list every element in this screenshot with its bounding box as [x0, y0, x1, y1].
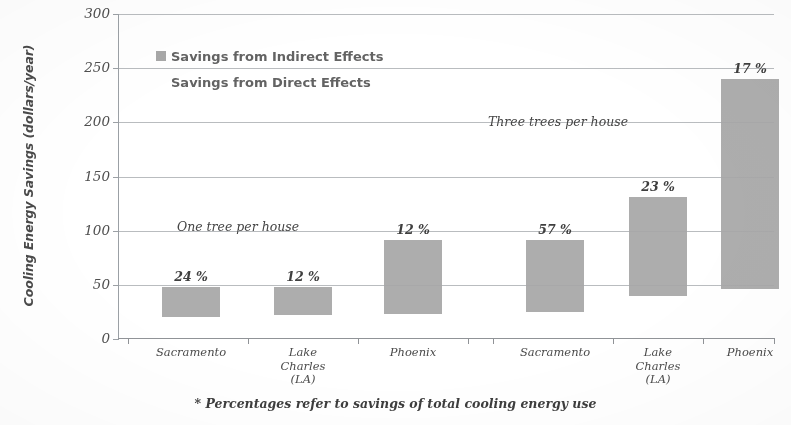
- gridline: [118, 14, 774, 15]
- x-tick-mark: [358, 338, 359, 344]
- x-category-label: Sacramento: [495, 346, 615, 360]
- legend-item-indirect: Savings from Indirect Effects: [156, 43, 383, 69]
- y-tick-label: 300: [56, 5, 110, 21]
- x-tick-mark: [703, 338, 704, 344]
- x-category-label: Phoenix: [353, 346, 473, 360]
- y-tick-mark: [113, 68, 119, 69]
- bar-percent-label: 12 %: [396, 222, 430, 237]
- x-axis-line: [118, 338, 774, 339]
- bar: [526, 240, 584, 312]
- x-tick-mark: [613, 338, 614, 344]
- bar: [629, 197, 687, 296]
- y-tick-label: 0: [56, 330, 110, 346]
- gridline: [118, 177, 774, 178]
- group-annotation: Three trees per house: [488, 114, 628, 129]
- gridline: [118, 122, 774, 123]
- y-tick-label: 100: [56, 222, 110, 238]
- y-tick-mark: [113, 231, 119, 232]
- bar: [384, 240, 442, 314]
- x-tick-mark: [248, 338, 249, 344]
- legend-item-direct: Savings from Direct Effects: [156, 69, 383, 95]
- x-tick-mark: [774, 338, 775, 344]
- legend-swatch-indirect: [156, 51, 166, 61]
- bar: [274, 287, 332, 315]
- group-annotation: One tree per house: [177, 219, 299, 234]
- legend-label-direct: Savings from Direct Effects: [171, 75, 371, 90]
- x-category-label: Sacramento: [131, 346, 251, 360]
- y-tick-mark: [113, 122, 119, 123]
- x-tick-mark: [128, 338, 129, 344]
- bar-percent-label: 24 %: [174, 269, 208, 284]
- chart-footnote: * Percentages refer to savings of total …: [0, 396, 791, 411]
- chart-legend: Savings from Indirect Effects Savings fr…: [156, 43, 383, 95]
- y-tick-label: 150: [56, 168, 110, 184]
- bar: [721, 79, 779, 289]
- y-tick-mark: [113, 177, 119, 178]
- y-tick-mark: [113, 339, 119, 340]
- bar-percent-label: 23 %: [641, 179, 675, 194]
- bar-percent-label: 12 %: [286, 269, 320, 284]
- y-tick-mark: [113, 285, 119, 286]
- x-tick-mark: [493, 338, 494, 344]
- x-tick-mark: [468, 338, 469, 344]
- chart-figure: Cooling Energy Savings (dollars/year) 05…: [0, 0, 791, 425]
- bar: [162, 287, 220, 317]
- y-tick-label: 250: [56, 59, 110, 75]
- y-tick-label: 200: [56, 113, 110, 129]
- y-tick-mark: [113, 14, 119, 15]
- x-category-label: Phoenix: [690, 346, 791, 360]
- x-category-label: Lake Charles (LA): [243, 346, 363, 387]
- y-axis-title: Cooling Energy Savings (dollars/year): [21, 26, 36, 326]
- y-tick-label: 50: [56, 276, 110, 292]
- legend-swatch-direct: [156, 77, 166, 87]
- legend-label-indirect: Savings from Indirect Effects: [171, 49, 383, 64]
- bar-percent-label: 57 %: [538, 222, 572, 237]
- bar-percent-label: 17 %: [733, 61, 767, 76]
